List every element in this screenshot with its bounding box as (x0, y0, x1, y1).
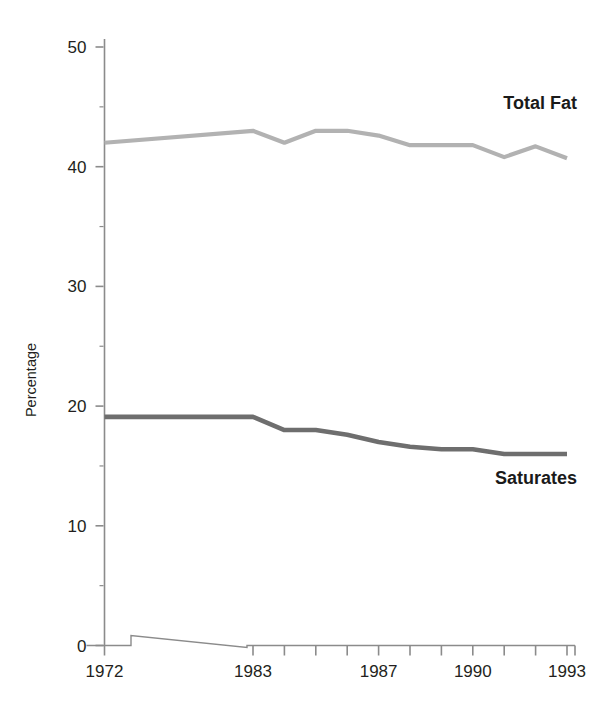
series-line-saturates (105, 417, 568, 454)
line-chart: 01020304050 19721983198719901993 Total F… (0, 0, 612, 723)
y-tick-label: 20 (68, 397, 87, 416)
y-tick-label: 10 (68, 517, 87, 536)
series-line-total-fat (105, 131, 568, 159)
x-tick-label: 1972 (86, 662, 124, 681)
series-label-total-fat: Total Fat (503, 93, 577, 113)
y-tick-label: 0 (77, 637, 86, 656)
x-axis: 19721983198719901993 (86, 636, 586, 681)
y-tick-label: 50 (68, 38, 87, 57)
y-tick-label: 40 (68, 158, 87, 177)
chart-container: 01020304050 19721983198719901993 Total F… (0, 0, 612, 723)
x-tick-label: 1983 (234, 662, 272, 681)
y-tick-label: 30 (68, 277, 87, 296)
y-axis: 01020304050 (68, 38, 105, 656)
y-axis-title: Percentage (23, 343, 39, 417)
x-tick-label: 1987 (360, 662, 398, 681)
x-tick-label: 1990 (454, 662, 492, 681)
x-tick-label: 1993 (548, 662, 586, 681)
series-labels-group: Total FatSaturates (495, 93, 577, 488)
series-label-saturates: Saturates (495, 468, 577, 488)
data-series-group (105, 131, 568, 454)
